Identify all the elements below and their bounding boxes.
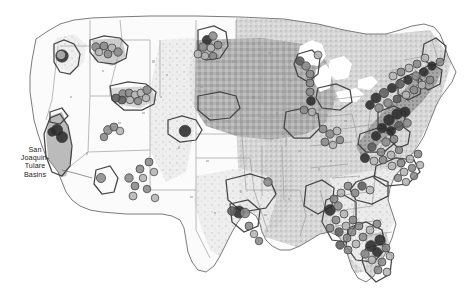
sampling-site-marker [326, 224, 334, 232]
sampling-site-marker [366, 186, 374, 194]
sampling-site-marker [114, 48, 122, 56]
sampling-site-marker [371, 131, 380, 140]
sampling-site-marker [134, 97, 142, 105]
sampling-site-marker [414, 150, 422, 158]
sampling-site-marker [136, 165, 144, 173]
sampling-site-marker [95, 48, 103, 56]
sampling-site-marker [139, 174, 147, 182]
sampling-site-marker [378, 258, 386, 266]
sampling-site-marker [352, 240, 360, 248]
sampling-site-marker [332, 216, 340, 224]
sampling-site-marker [395, 122, 404, 131]
sampling-site-marker [377, 123, 387, 133]
sampling-site-marker [382, 244, 390, 252]
sampling-site-marker [355, 222, 363, 230]
sampling-site-marker [342, 222, 350, 230]
sampling-site-marker [420, 68, 428, 76]
sampling-site-marker [306, 79, 314, 87]
sampling-site-marker [410, 172, 418, 180]
sampling-site-marker [396, 80, 405, 89]
sampling-site-marker [351, 189, 359, 197]
sampling-site-marker [416, 161, 424, 169]
sampling-site-marker [413, 60, 421, 68]
sampling-site-marker [349, 216, 357, 224]
sampling-site-marker [344, 246, 352, 254]
sampling-site-marker [377, 148, 385, 156]
sampling-site-marker [335, 228, 343, 236]
sampling-site-marker [405, 64, 413, 72]
sampling-site-marker [129, 192, 137, 200]
sampling-site-marker [428, 62, 436, 70]
sampling-site-marker [366, 101, 375, 110]
sampling-site-marker [379, 156, 387, 164]
sampling-site-marker [329, 141, 337, 149]
sampling-site-marker [397, 159, 405, 167]
sampling-site-marker [383, 268, 391, 276]
sampling-site-marker [375, 104, 383, 112]
sampling-site-marker [368, 143, 376, 151]
sampling-site-marker [56, 131, 67, 142]
map-container: San Joaquin- Tulare Basins [0, 0, 476, 299]
sampling-site-marker [436, 58, 444, 66]
sampling-site-marker [125, 174, 133, 182]
sampling-site-marker [142, 94, 150, 102]
sampling-site-marker [250, 230, 258, 238]
sampling-site-marker [372, 247, 381, 256]
sampling-site-marker [245, 222, 253, 230]
sampling-site-marker [370, 157, 378, 165]
sampling-site-marker [359, 233, 367, 241]
sampling-site-marker [408, 164, 416, 172]
sampling-site-marker [360, 153, 369, 162]
sampling-site-marker [374, 266, 382, 274]
sampling-site-marker [321, 138, 329, 146]
sampling-site-marker [150, 168, 158, 176]
sampling-site-marker [179, 125, 191, 137]
sampling-site-marker [387, 151, 395, 159]
sampling-site-marker [240, 208, 250, 218]
sampling-site-marker [390, 135, 398, 143]
sampling-site-marker [131, 182, 139, 190]
sampling-site-marker [255, 237, 263, 245]
sampling-site-marker [426, 76, 434, 84]
sampling-site-marker [307, 97, 316, 106]
sampling-site-marker [151, 194, 159, 202]
sampling-site-marker [194, 50, 202, 58]
sampling-site-marker [143, 185, 151, 193]
sampling-site-marker [96, 173, 105, 182]
sampling-site-marker [308, 108, 316, 116]
sampling-site-marker [126, 96, 134, 104]
sampling-site-marker [333, 127, 341, 135]
sampling-site-marker [100, 133, 108, 141]
sampling-site-marker [412, 72, 420, 80]
sampling-site-marker [395, 146, 403, 154]
sampling-site-marker [358, 182, 366, 190]
sampling-site-marker [421, 54, 429, 62]
sampling-site-marker [336, 136, 344, 144]
sampling-site-marker [402, 91, 410, 99]
sampling-site-marker [145, 158, 153, 166]
sampling-site-marker [402, 178, 410, 186]
sampling-site-marker [199, 43, 207, 51]
sampling-site-marker [375, 235, 385, 245]
sampling-site-marker [397, 68, 405, 76]
sampling-site-marker [209, 52, 217, 60]
sampling-site-marker [373, 220, 381, 228]
sampling-site-marker [387, 83, 396, 92]
sampling-site-marker [336, 241, 344, 249]
sampling-site-marker [361, 250, 369, 258]
sampling-site-marker [403, 119, 411, 127]
sampling-site-marker [386, 126, 395, 135]
sampling-site-marker [306, 70, 314, 78]
sampling-site-marker [116, 127, 124, 135]
sampling-site-marker [337, 189, 345, 197]
sampling-site-marker [394, 174, 402, 182]
sampling-site-marker [340, 210, 348, 218]
sampling-site-marker [400, 168, 408, 176]
sampling-site-marker [300, 106, 308, 114]
sampling-site-marker [379, 88, 388, 97]
sampling-site-marker [209, 32, 217, 40]
sampling-site-marker [112, 94, 120, 102]
sampling-site-marker [228, 207, 237, 216]
sampling-site-marker [314, 51, 322, 59]
sampling-site-marker [143, 86, 151, 94]
